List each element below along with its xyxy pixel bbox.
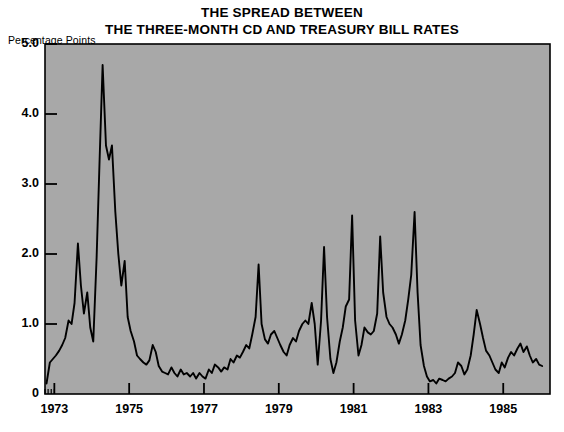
chart-svg — [0, 0, 564, 432]
chart-figure: THE SPREAD BETWEEN THE THREE-MONTH CD AN… — [0, 0, 564, 432]
x-axis-tick-label: 1973 — [29, 402, 79, 416]
x-axis-tick-label: 1979 — [254, 402, 304, 416]
x-axis-tick-label: 1983 — [403, 402, 453, 416]
y-axis-tick-label: 0 — [5, 386, 39, 400]
plot-area: 5.04.03.02.01.00 19731975197719791981198… — [0, 0, 564, 432]
y-axis-tick-label: 2.0 — [5, 246, 39, 260]
y-axis-tick-label: 1.0 — [5, 316, 39, 330]
x-axis-tick-label: 1975 — [104, 402, 154, 416]
x-axis-tick-label: 1981 — [329, 402, 379, 416]
x-axis-tick-label: 1985 — [478, 402, 528, 416]
x-axis-tick-label: 1977 — [179, 402, 229, 416]
y-axis-tick-label: 4.0 — [5, 106, 39, 120]
y-axis-tick-label: 5.0 — [5, 36, 39, 50]
plot-background — [45, 44, 550, 394]
y-axis-tick-label: 3.0 — [5, 176, 39, 190]
